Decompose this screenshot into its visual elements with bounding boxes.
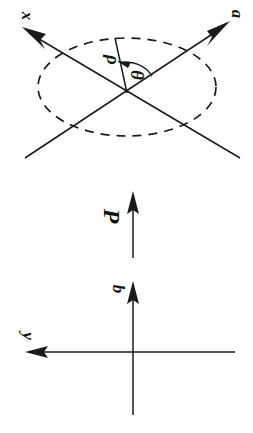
- p-vector-label: P: [99, 208, 125, 224]
- a-axis-line: [25, 27, 223, 158]
- b-axis-label: b: [109, 285, 128, 294]
- figure-root: x a ρ θ P: [0, 0, 253, 433]
- diagram-canvas: x a ρ θ P: [0, 0, 253, 433]
- x-axis-line: [29, 33, 240, 158]
- y-axis-label: y: [19, 330, 38, 340]
- theta-label: θ: [127, 70, 148, 80]
- a-axis-arrowhead-icon: [207, 21, 230, 46]
- lower-diagram-group: P b y: [19, 191, 235, 415]
- dashed-ellipse: [38, 38, 216, 136]
- a-axis-label: a: [228, 10, 247, 19]
- upper-diagram-group: x a ρ θ: [18, 10, 247, 158]
- x-axis-arrowhead-icon: [22, 27, 46, 49]
- x-axis-label: x: [18, 11, 37, 21]
